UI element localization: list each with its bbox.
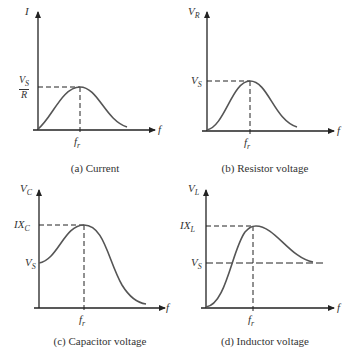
resistor-voltage-curve xyxy=(207,81,297,130)
caption-a: (a) Current xyxy=(10,162,180,174)
fr-tick-label: fr xyxy=(79,314,85,328)
fr-tick-label: fr xyxy=(248,314,254,328)
panel-b-chart xyxy=(202,12,334,135)
panel-d-chart xyxy=(201,190,334,312)
caption-d: (d) Inductor voltage xyxy=(180,335,350,347)
fr-tick-label: fr xyxy=(244,137,250,151)
x-axis-label: f xyxy=(158,124,161,135)
panel-a-chart xyxy=(33,12,155,134)
vs-value-label: VS xyxy=(191,257,202,271)
caption-c: (c) Capacitor voltage xyxy=(15,335,185,347)
y-axis-label: VL xyxy=(188,183,199,197)
current-curve xyxy=(38,87,127,129)
y-axis-label: I xyxy=(25,6,29,17)
caption-b: (b) Resistor voltage xyxy=(180,162,350,174)
peak-value-label: IXL xyxy=(180,220,195,234)
peak-value-label: IXC xyxy=(14,219,30,233)
resonance-figure xyxy=(0,0,358,362)
x-axis-label: f xyxy=(337,125,340,136)
capacitor-voltage-curve xyxy=(39,225,146,304)
peak-value-label: VSR xyxy=(19,75,29,100)
x-axis-label: f xyxy=(166,302,169,313)
panel-c-chart xyxy=(34,190,165,312)
vs-value-label: VS xyxy=(25,257,36,271)
y-axis-label: VC xyxy=(20,183,32,197)
y-axis-label: VR xyxy=(188,6,200,20)
fr-tick-label: fr xyxy=(74,136,80,150)
peak-value-label: VS xyxy=(191,75,202,89)
x-axis-label: f xyxy=(337,302,340,313)
inductor-voltage-curve xyxy=(206,226,313,307)
